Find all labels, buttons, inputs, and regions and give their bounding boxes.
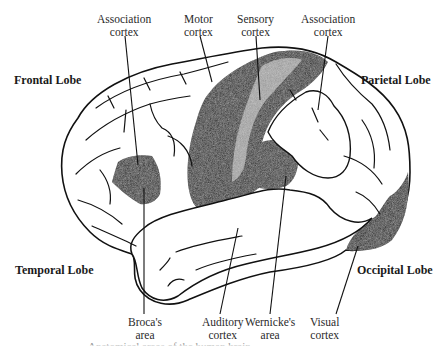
label-line: area xyxy=(245,329,295,342)
label-line: cortex xyxy=(97,26,151,39)
label-occipital-lobe: Occipital Lobe xyxy=(357,263,433,278)
label-association-cortex-right: Association cortex xyxy=(301,13,355,39)
label-association-cortex-left: Association cortex xyxy=(97,13,151,39)
brain-diagram: Association cortex Motor cortex Sensory … xyxy=(0,0,437,355)
label-frontal-lobe: Frontal Lobe xyxy=(14,73,81,88)
label-line: Association xyxy=(301,13,355,26)
label-motor-cortex: Motor cortex xyxy=(184,13,213,39)
label-parietal-lobe: Parietal Lobe xyxy=(361,73,431,88)
label-line: Auditory xyxy=(202,316,244,329)
label-sensory-cortex: Sensory cortex xyxy=(237,13,274,39)
label-temporal-lobe: Temporal Lobe xyxy=(15,263,94,278)
label-line: Broca's xyxy=(128,316,162,329)
label-visual-cortex: Visual cortex xyxy=(310,316,339,342)
label-line: Visual xyxy=(310,316,339,329)
label-line: cortex xyxy=(301,26,355,39)
label-line: cortex xyxy=(184,26,213,39)
label-wernicke-area: Wernicke's area xyxy=(245,316,295,342)
label-line: cortex xyxy=(237,26,274,39)
brain-illustration xyxy=(0,0,437,355)
label-line: Sensory xyxy=(237,13,274,26)
label-line: Motor xyxy=(184,13,213,26)
label-auditory-cortex: Auditory cortex xyxy=(202,316,244,342)
label-line: Association xyxy=(97,13,151,26)
label-line: cortex xyxy=(310,329,339,342)
label-line: Wernicke's xyxy=(245,316,295,329)
label-broca-area: Broca's area xyxy=(128,316,162,342)
